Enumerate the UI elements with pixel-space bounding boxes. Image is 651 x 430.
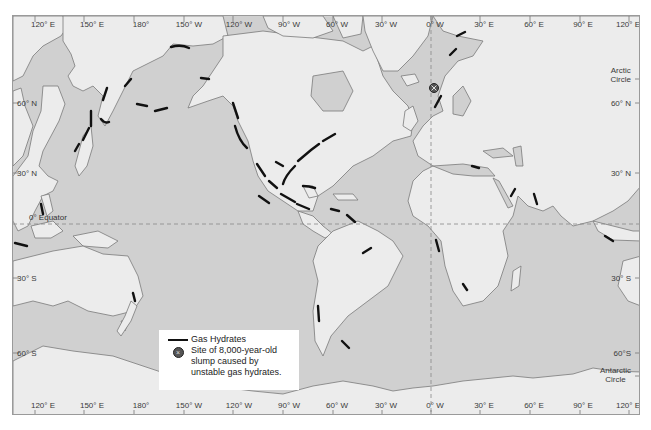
lon-label-top: 0° W xyxy=(426,20,443,29)
legend-item-gas-hydrates: Gas Hydrates xyxy=(165,334,293,345)
lon-label-bottom: 120° E xyxy=(616,401,640,410)
lon-label-bottom: 60° W xyxy=(326,401,348,410)
lat-label-right: 60° N xyxy=(611,99,631,108)
lon-label-top: 90° E xyxy=(573,20,593,29)
lon-label-bottom: 60° E xyxy=(524,401,544,410)
lon-label-top: 150° E xyxy=(80,20,104,29)
lon-label-bottom: 120° E xyxy=(31,401,55,410)
lon-label-top: 180° xyxy=(133,20,150,29)
lon-label-top: 120° E xyxy=(31,20,55,29)
lat-label-right: 60°S xyxy=(614,349,631,358)
lon-label-top: 120° E xyxy=(616,20,640,29)
hydrate-line-icon xyxy=(168,339,188,341)
lon-label-top: 150° W xyxy=(176,20,202,29)
arctic-circle-label: Arctic Circle xyxy=(611,66,631,84)
lat-label-left: 30° S xyxy=(17,274,37,283)
lon-label-bottom: 30° E xyxy=(474,401,494,410)
antarctic-circle-label: Antarctic Circle xyxy=(600,366,631,384)
lon-label-bottom: 180° xyxy=(133,401,150,410)
lon-label-bottom: 90° W xyxy=(278,401,300,410)
lon-label-bottom: 30° W xyxy=(375,401,397,410)
lon-label-bottom: 150° W xyxy=(176,401,202,410)
lat-label-right: 30° N xyxy=(611,169,631,178)
circle-x-icon: × xyxy=(173,347,184,358)
lon-label-top: 30° W xyxy=(375,20,397,29)
lon-label-bottom: 90° E xyxy=(573,401,593,410)
lat-label-left: 60° N xyxy=(17,99,37,108)
legend-item-slump-site: × Site of 8,000-year-old slump caused by… xyxy=(165,345,293,378)
lon-label-top: 90° W xyxy=(278,20,300,29)
equator-label: 0° Equator xyxy=(29,213,67,222)
lon-label-top: 60° E xyxy=(524,20,544,29)
map-legend: Gas Hydrates × Site of 8,000-year-old sl… xyxy=(159,330,299,390)
lon-label-bottom: 120° W xyxy=(226,401,252,410)
world-map: 120° E 150° E 180° 150° W 120° W 90° W 6… xyxy=(12,15,640,415)
lat-label-right: 30° S xyxy=(611,274,631,283)
lat-label-left: 30° N xyxy=(17,169,37,178)
land-masses xyxy=(13,16,640,415)
lon-label-top: 60° W xyxy=(326,20,348,29)
lon-label-bottom: 150° E xyxy=(80,401,104,410)
slump-site-marker xyxy=(430,84,439,93)
lon-label-bottom: 0° W xyxy=(426,401,443,410)
lon-label-top: 30° E xyxy=(474,20,494,29)
lat-label-left: 60° S xyxy=(17,349,37,358)
map-canvas xyxy=(13,16,640,415)
lon-label-top: 120° W xyxy=(226,20,252,29)
